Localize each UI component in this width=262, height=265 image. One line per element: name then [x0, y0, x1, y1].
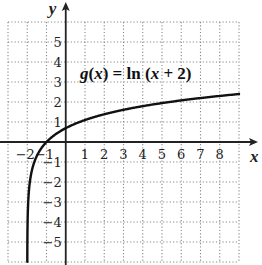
x-tick-label: 8 [216, 147, 224, 162]
y-tick-label: 2 [53, 95, 61, 110]
x-tick-label: 4 [139, 147, 147, 162]
function-variable-2: x [150, 64, 160, 83]
y-tick-label: −5 [43, 235, 62, 250]
x-tick-label: 3 [119, 147, 127, 162]
y-axis-label: y [47, 0, 57, 18]
function-name: g [79, 64, 89, 83]
function-rest: + 2) [159, 64, 191, 83]
x-tick-label: 6 [177, 147, 185, 162]
x-tick-label: −2 [16, 147, 35, 162]
y-tick-label: 3 [53, 75, 61, 90]
y-tick-label: 4 [53, 55, 61, 70]
y-tick-label: −2 [43, 175, 62, 190]
y-tick-label: 1 [53, 115, 61, 130]
x-tick-label: 1 [81, 147, 89, 162]
x-tick-label: 7 [196, 147, 204, 162]
x-tick-label: 2 [100, 147, 108, 162]
y-tick-label: −1 [43, 155, 62, 170]
y-tick-label: −3 [43, 195, 62, 210]
chart: x y −2−112345678−5−4−3−2−112345 g(x) = l… [0, 0, 262, 265]
x-axis-label: x [249, 147, 259, 166]
axes: x y [0, 0, 259, 265]
function-variable: x [93, 64, 103, 83]
y-tick-label: −4 [43, 215, 62, 230]
function-label: g(x) = ln (x + 2) [79, 64, 191, 83]
y-tick-label: 5 [53, 35, 61, 50]
x-tick-label: 5 [158, 147, 166, 162]
function-equals-ln: = ln ( [108, 64, 151, 83]
